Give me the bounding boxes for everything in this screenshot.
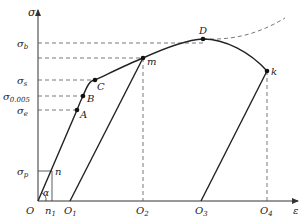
- O4-label: O4: [260, 205, 273, 218]
- sigma-0005-label: σ0.005: [3, 91, 30, 104]
- point-A: [75, 108, 80, 113]
- true-stress-curve: [203, 18, 285, 39]
- point-C-label: C: [97, 81, 105, 92]
- unload-line-O3: [201, 71, 267, 201]
- sigma-p-label: σp: [17, 166, 29, 179]
- origin-label: O: [26, 205, 34, 216]
- epsilon-axis-label: ε: [293, 205, 298, 216]
- point-B-label: B: [86, 93, 94, 104]
- O2-label: O2: [136, 205, 149, 218]
- point-m: [141, 56, 146, 61]
- alpha-label: α: [43, 188, 49, 198]
- O3-label: O3: [195, 205, 208, 218]
- stress-strain-diagram: σ ε O σb σs σ0.005 σe σp n1 O1 O2 O3 O4 …: [0, 0, 306, 218]
- point-k-label: k: [271, 66, 277, 77]
- n1-label: n1: [45, 205, 56, 218]
- point-n-label: n: [55, 166, 61, 177]
- point-D: [201, 37, 206, 42]
- point-B: [81, 94, 86, 99]
- sigma-b-label: σb: [17, 38, 29, 51]
- O1-label: O1: [64, 205, 77, 218]
- sigma-s-label: σs: [17, 75, 28, 88]
- diagram-canvas: σ ε O σb σs σ0.005 σe σp n1 O1 O2 O3 O4 …: [0, 0, 306, 218]
- point-m-label: m: [147, 56, 156, 67]
- sigma-e-label: σe: [17, 105, 28, 118]
- point-k: [265, 69, 270, 74]
- sigma-axis-label: σ: [28, 6, 36, 19]
- point-D-label: D: [198, 25, 207, 36]
- point-A-label: A: [79, 109, 87, 120]
- unload-line-O1: [70, 58, 143, 201]
